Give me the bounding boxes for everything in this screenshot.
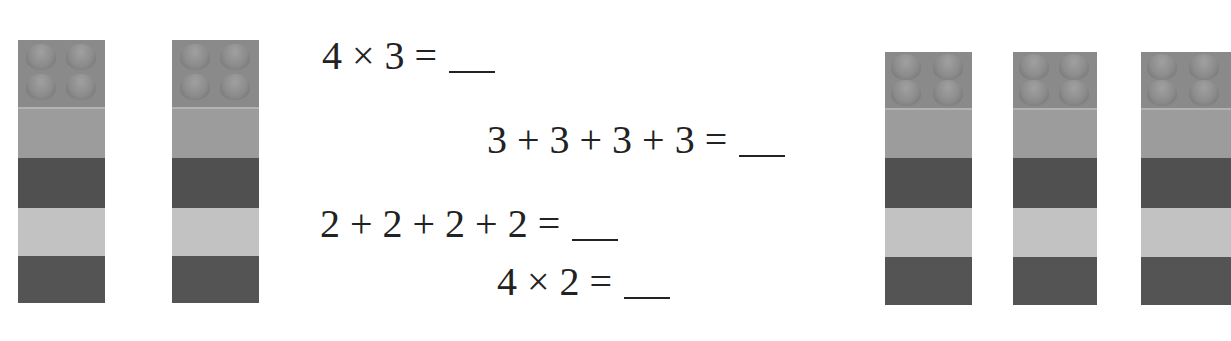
equation-text: 2 + 2 + 2 + 2 = — [320, 201, 560, 246]
equation-2: 3 + 3 + 3 + 3 = — [487, 120, 785, 160]
brick-light — [18, 208, 105, 256]
brick-gray — [1013, 108, 1097, 160]
brick-dark — [172, 256, 259, 303]
brick-gray — [172, 107, 259, 160]
brick-gray — [1141, 108, 1231, 160]
equation-4: 4 × 2 = — [497, 262, 670, 302]
brick-light — [172, 208, 259, 256]
equation-1: 4 × 3 = — [322, 36, 495, 76]
answer-blank[interactable] — [624, 297, 670, 299]
brick-stack-left-2 — [172, 40, 259, 303]
brick-dark — [885, 257, 972, 305]
brick-studs — [885, 52, 972, 108]
brick-dark — [1013, 257, 1097, 305]
brick-stack-left-1 — [18, 40, 105, 303]
brick-stack-right-3 — [1141, 52, 1231, 305]
brick-studs — [18, 40, 105, 107]
brick-light — [885, 208, 972, 257]
brick-dark — [1013, 158, 1097, 208]
answer-blank[interactable] — [739, 155, 785, 157]
equation-text: 4 × 3 = — [322, 33, 437, 78]
brick-studs — [1141, 52, 1231, 108]
brick-gray — [885, 108, 972, 160]
equation-3: 2 + 2 + 2 + 2 = — [320, 204, 618, 244]
brick-dark — [885, 158, 972, 208]
brick-stack-right-1 — [885, 52, 972, 305]
brick-dark — [18, 158, 105, 208]
brick-studs — [172, 40, 259, 107]
brick-dark — [1141, 257, 1231, 305]
brick-stack-right-2 — [1013, 52, 1097, 305]
answer-blank[interactable] — [572, 239, 618, 241]
brick-dark — [18, 256, 105, 303]
brick-studs — [1013, 52, 1097, 108]
answer-blank[interactable] — [449, 71, 495, 73]
brick-light — [1013, 208, 1097, 257]
equation-text: 4 × 2 = — [497, 259, 612, 304]
equation-text: 3 + 3 + 3 + 3 = — [487, 117, 727, 162]
brick-light — [1141, 208, 1231, 257]
brick-dark — [172, 158, 259, 208]
brick-dark — [1141, 158, 1231, 208]
brick-gray — [18, 107, 105, 160]
